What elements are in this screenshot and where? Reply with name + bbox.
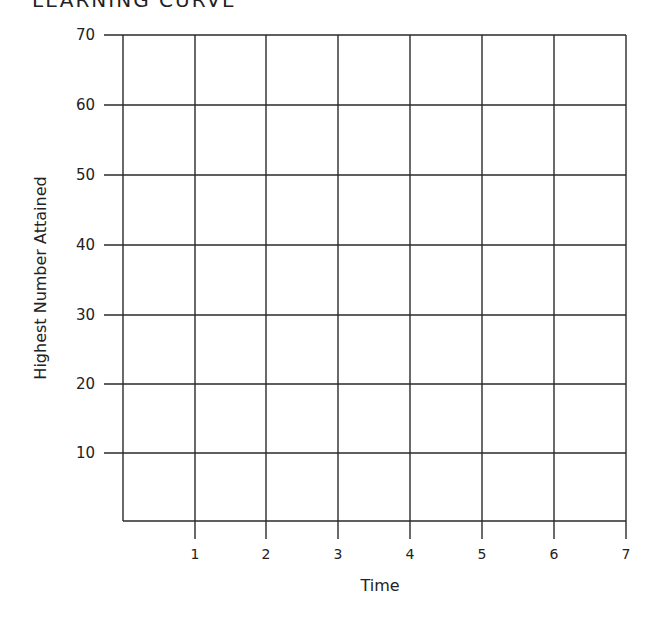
x-tick-1: 1: [191, 546, 200, 562]
x-tick-3: 3: [334, 546, 343, 562]
y-tick-70: 70: [55, 26, 95, 44]
y-tick-20: 20: [55, 375, 95, 393]
x-axis-label: Time: [360, 576, 399, 595]
y-tick-40: 40: [55, 236, 95, 254]
x-tick-2: 2: [262, 546, 271, 562]
x-tick-5: 5: [478, 546, 487, 562]
y-tick-50: 50: [55, 166, 95, 184]
y-tick-10: 10: [55, 444, 95, 462]
chart-grid: [0, 0, 659, 618]
x-tick-7: 7: [622, 546, 631, 562]
y-tick-30: 30: [55, 306, 95, 324]
y-axis-label: Highest Number Attained: [31, 176, 50, 379]
x-tick-6: 6: [550, 546, 559, 562]
y-tick-60: 60: [55, 96, 95, 114]
x-tick-4: 4: [406, 546, 415, 562]
